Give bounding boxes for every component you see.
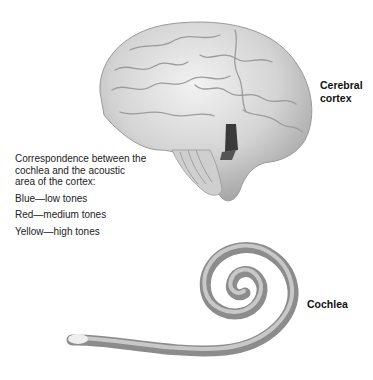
cerebral-cortex-label-line2: cortex — [320, 92, 363, 105]
cochlea-label: Cochlea — [307, 298, 348, 311]
legend: Correspondence between the cochlea and t… — [15, 153, 146, 242]
legend-intro: Correspondence between the cochlea and t… — [15, 153, 146, 188]
legend-item-blue: Blue—low tones — [15, 193, 146, 205]
cochlea-illustration — [68, 246, 293, 351]
legend-item-yellow: Yellow—high tones — [15, 226, 146, 238]
legend-item-red: Red—medium tones — [15, 209, 146, 221]
cerebral-cortex-label-line1: Cerebral — [320, 79, 363, 92]
cerebral-cortex-label: Cerebral cortex — [320, 79, 363, 105]
